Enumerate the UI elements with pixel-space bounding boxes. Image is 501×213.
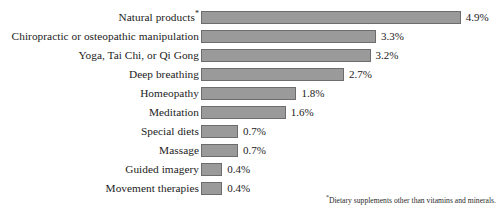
bar-value-label: 0.4%	[227, 163, 250, 176]
bar-value-label: 4.9%	[466, 11, 489, 24]
bar-zone: 0.7%	[201, 122, 501, 141]
bar	[201, 144, 238, 157]
bar	[201, 49, 371, 62]
chart-row: Meditation1.6%	[0, 103, 501, 122]
bar-value-label: 0.4%	[227, 182, 250, 195]
bar-value-label: 0.7%	[243, 125, 266, 138]
bar-zone: 3.2%	[201, 46, 501, 65]
category-label: Guided imagery	[0, 163, 201, 176]
bar	[201, 68, 344, 81]
bar-zone: 4.9%	[201, 8, 501, 27]
chart-row: Massage0.7%	[0, 141, 501, 160]
bar	[201, 87, 296, 100]
chart-row: Deep breathing2.7%	[0, 65, 501, 84]
bar-value-label: 0.7%	[243, 144, 266, 157]
chart-row: Guided imagery0.4%	[0, 160, 501, 179]
category-label: Massage	[0, 144, 201, 157]
category-label: Special diets	[0, 125, 201, 138]
chart-footnote: *Dietary supplements other than vitamins…	[0, 196, 496, 206]
category-label: Natural products*	[0, 11, 201, 24]
chart-row: Chiropractic or osteopathic manipulation…	[0, 27, 501, 46]
bar	[201, 163, 222, 176]
bar-zone: 1.6%	[201, 103, 501, 122]
bar-zone: 0.4%	[201, 160, 501, 179]
bar-value-label: 1.6%	[291, 106, 314, 119]
chart-row: Special diets0.7%	[0, 122, 501, 141]
category-label: Homeopathy	[0, 87, 201, 100]
category-label: Deep breathing	[0, 68, 201, 81]
bar-zone: 1.8%	[201, 84, 501, 103]
chart-row: Homeopathy1.8%	[0, 84, 501, 103]
chart-row: Yoga, Tai Chi, or Qi Gong3.2%	[0, 46, 501, 65]
bar-zone: 2.7%	[201, 65, 501, 84]
footnote-marker-icon: *	[195, 9, 199, 18]
category-label: Movement therapies	[0, 182, 201, 195]
bar	[201, 11, 461, 24]
chart-row: Natural products*4.9%	[0, 8, 501, 27]
bar-zone: 3.3%	[201, 27, 501, 46]
category-label: Chiropractic or osteopathic manipulation	[0, 30, 201, 43]
bar-value-label: 3.2%	[376, 49, 399, 62]
chart-rows: Natural products*4.9%Chiropractic or ost…	[0, 8, 501, 198]
bar	[201, 125, 238, 138]
category-label: Meditation	[0, 106, 201, 119]
bar	[201, 30, 376, 43]
bar-value-label: 1.8%	[301, 87, 324, 100]
bar	[201, 106, 286, 119]
bar-value-label: 2.7%	[349, 68, 372, 81]
bar	[201, 182, 222, 195]
footnote-text: Dietary supplements other than vitamins …	[329, 196, 496, 205]
bar-value-label: 3.3%	[381, 30, 404, 43]
bar-zone: 0.7%	[201, 141, 501, 160]
category-label: Yoga, Tai Chi, or Qi Gong	[0, 49, 201, 62]
horizontal-bar-chart: Natural products*4.9%Chiropractic or ost…	[0, 0, 501, 213]
